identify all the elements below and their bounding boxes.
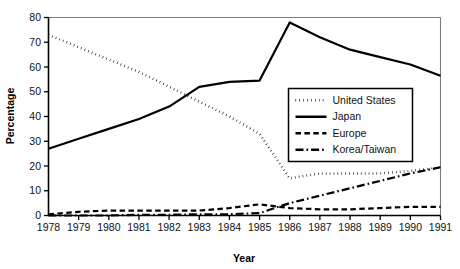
y-tick-label: 40	[29, 110, 41, 122]
x-tick-label: 1989	[369, 221, 393, 233]
x-tick-label: 1982	[157, 221, 181, 233]
x-tick-label: 1985	[248, 221, 272, 233]
x-tick-label: 1988	[338, 221, 362, 233]
y-axis-label: Percentage	[4, 88, 16, 145]
x-tick-label: 1991	[429, 221, 453, 233]
y-tick-label: 70	[29, 36, 41, 48]
y-tick-label: 10	[29, 184, 41, 196]
legend-label: Japan	[333, 110, 362, 122]
x-tick-label: 1978	[37, 221, 61, 233]
y-tick-label: 60	[29, 61, 41, 73]
x-tick-label: 1987	[308, 221, 332, 233]
x-tick-label: 1979	[67, 221, 91, 233]
x-tick-label: 1983	[188, 221, 212, 233]
x-tick-label: 1990	[399, 221, 423, 233]
chart-legend: United StatesJapanEuropeKorea/Taiwan	[289, 89, 413, 162]
chart-canvas: 01020304050607080 1978197919801981198219…	[0, 0, 460, 269]
y-tick-label: 80	[29, 11, 41, 23]
legend-label: Europe	[333, 127, 367, 139]
x-tick-label: 1981	[127, 221, 151, 233]
x-tick-label: 1984	[218, 221, 242, 233]
y-tick-label: 50	[29, 85, 41, 97]
x-tick-label: 1986	[278, 221, 302, 233]
y-tick-label: 30	[29, 135, 41, 147]
legend-label: Korea/Taiwan	[333, 143, 397, 155]
legend-label: United States	[333, 94, 396, 106]
y-tick-label: 20	[29, 160, 41, 172]
line-chart: 01020304050607080 1978197919801981198219…	[0, 0, 460, 269]
x-tick-label: 1980	[97, 221, 121, 233]
x-axis-label: Year	[233, 252, 255, 264]
y-tick-label: 0	[35, 209, 41, 221]
